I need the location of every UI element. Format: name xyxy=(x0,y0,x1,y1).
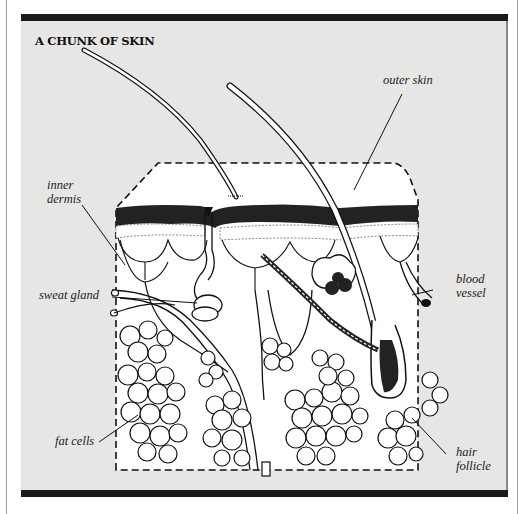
blood-vessel-end xyxy=(421,299,431,307)
label-hair-follicle: hair follicle xyxy=(456,445,491,473)
label-blood-vessel: blood vessel xyxy=(456,272,486,300)
label-sweat-gland: sweat gland xyxy=(39,288,99,302)
label-outer-skin: outer skin xyxy=(383,73,433,87)
label-inner-dermis: inner dermis xyxy=(47,178,81,206)
diagram-title: A CHUNK OF SKIN xyxy=(35,34,154,48)
label-fat-cells: fat cells xyxy=(55,434,94,448)
